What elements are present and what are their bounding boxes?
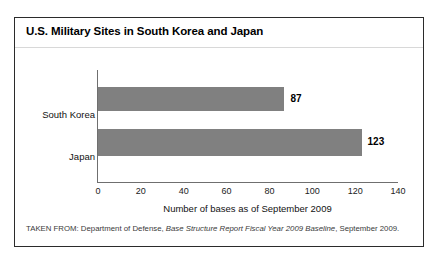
x-tick-label-40: 40 (179, 186, 189, 196)
bar-japan (98, 129, 362, 156)
chart-title-bar: U.S. Military Sites in South Korea and J… (15, 18, 423, 48)
source-note-suffix: , September 2009. (335, 224, 399, 233)
x-tick-label-120: 120 (348, 186, 363, 196)
category-label-japan: Japan (69, 151, 95, 162)
x-tick-label-60: 60 (222, 186, 232, 196)
x-tick-label-140: 140 (390, 186, 405, 196)
category-label-south-korea: South Korea (42, 109, 95, 120)
bar-value-south-korea: 87 (290, 93, 301, 104)
source-note-prefix: TAKEN FROM: Department of Defense, (26, 224, 166, 233)
x-tick-label-80: 80 (264, 186, 274, 196)
bar-value-japan: 123 (368, 136, 385, 147)
bar-south-korea (98, 87, 284, 111)
source-note-title: Base Structure Report Fiscal Year 2009 B… (166, 224, 335, 233)
x-axis-line (97, 182, 398, 183)
chart-title: U.S. Military Sites in South Korea and J… (26, 25, 263, 37)
plot-area: South Korea Japan 87 123 020406080100120… (15, 48, 423, 213)
x-axis-label: Number of bases as of September 2009 (97, 203, 398, 214)
x-tick-label-20: 20 (136, 186, 146, 196)
x-tick-label-0: 0 (95, 186, 100, 196)
x-tick-label-100: 100 (305, 186, 320, 196)
source-note: TAKEN FROM: Department of Defense, Base … (26, 224, 399, 233)
chart-figure: U.S. Military Sites in South Korea and J… (14, 17, 424, 247)
